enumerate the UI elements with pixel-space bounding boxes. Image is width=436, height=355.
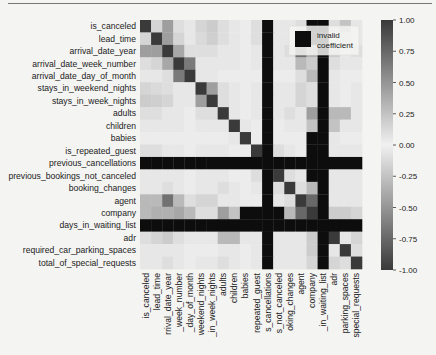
heatmap-cell-invalid bbox=[262, 232, 273, 245]
heatmap-cell bbox=[251, 132, 262, 145]
heatmap-cell bbox=[184, 120, 195, 133]
y-tick-label: required_car_parking_spaces bbox=[23, 245, 136, 255]
heatmap-cell bbox=[307, 207, 318, 220]
heatmap-cell bbox=[218, 45, 229, 58]
heatmap-cell-invalid bbox=[329, 219, 340, 232]
heatmap-cell bbox=[162, 232, 173, 245]
y-tick-label: previous_bookings_not_canceled bbox=[8, 171, 136, 181]
heatmap-cell bbox=[151, 32, 162, 45]
heatmap-cell bbox=[196, 182, 207, 195]
heatmap-cell bbox=[207, 82, 218, 95]
heatmap-cell bbox=[162, 207, 173, 220]
heatmap-cell bbox=[184, 57, 195, 70]
heatmap-cell bbox=[351, 120, 362, 133]
heatmap-cell-invalid bbox=[351, 157, 362, 170]
heatmap-cell bbox=[284, 95, 295, 108]
heatmap-cell bbox=[340, 70, 351, 83]
x-tick-label: agent bbox=[296, 272, 306, 294]
heatmap-cell bbox=[196, 244, 207, 257]
colorbar: 1.000.750.500.250.00-0.25-0.50-0.75-1.00 bbox=[381, 16, 418, 275]
y-tick-label: stays_in_weekend_nights bbox=[38, 83, 136, 93]
heatmap-cell bbox=[295, 107, 306, 120]
heatmap-cell bbox=[218, 95, 229, 108]
heatmap-cell bbox=[162, 70, 173, 83]
heatmap-cell bbox=[173, 182, 184, 195]
heatmap-cell bbox=[251, 182, 262, 195]
heatmap-cell-invalid bbox=[251, 157, 262, 170]
heatmap-cell bbox=[284, 132, 295, 145]
heatmap-cell bbox=[196, 257, 207, 270]
heatmap-cell-invalid bbox=[273, 157, 284, 170]
heatmap-cell bbox=[229, 95, 240, 108]
heatmap-cell bbox=[329, 232, 340, 245]
heatmap-cell bbox=[251, 70, 262, 83]
heatmap-cell bbox=[307, 120, 318, 133]
y-tick-label: days_in_waiting_list bbox=[60, 220, 137, 230]
heatmap-cell-invalid bbox=[196, 157, 207, 170]
y-tick-label: babies bbox=[111, 133, 136, 143]
heatmap-cell bbox=[218, 145, 229, 158]
heatmap-cell bbox=[151, 232, 162, 245]
heatmap-cell bbox=[162, 20, 173, 33]
x-tick-label: adr bbox=[329, 273, 339, 286]
legend-swatch-invalid bbox=[295, 31, 311, 47]
heatmap-cell bbox=[207, 169, 218, 182]
heatmap-cell-invalid bbox=[262, 120, 273, 133]
colorbar-tick-label: 0.25 bbox=[399, 110, 415, 119]
x-tick-label: adults bbox=[218, 273, 228, 296]
colorbar-tick-label: -1.00 bbox=[399, 266, 418, 275]
heatmap-cell bbox=[307, 182, 318, 195]
heatmap-cell-invalid bbox=[318, 194, 329, 207]
heatmap-cell bbox=[229, 120, 240, 133]
x-tick-label: _in_week_nights bbox=[207, 273, 217, 338]
heatmap-cell bbox=[196, 107, 207, 120]
heatmap-cell bbox=[284, 145, 295, 158]
heatmap-cell bbox=[329, 82, 340, 95]
heatmap-cell bbox=[340, 169, 351, 182]
heatmap-cell bbox=[240, 244, 251, 257]
heatmap-cell bbox=[295, 232, 306, 245]
heatmap-cell bbox=[207, 120, 218, 133]
colorbar-tick-label: -0.25 bbox=[399, 172, 418, 181]
x-tick-label: company bbox=[307, 272, 317, 308]
heatmap-cell-invalid bbox=[318, 57, 329, 70]
heatmap-cell bbox=[240, 194, 251, 207]
colorbar-tick-label: -0.50 bbox=[399, 204, 418, 213]
heatmap-cell bbox=[295, 244, 306, 257]
heatmap-cell bbox=[140, 244, 151, 257]
heatmap-cell bbox=[329, 169, 340, 182]
heatmap-cell bbox=[284, 232, 295, 245]
y-tick-label: arrival_date_year bbox=[70, 46, 137, 56]
heatmap-cell-invalid bbox=[351, 219, 362, 232]
heatmap-cell bbox=[173, 120, 184, 133]
heatmap-cell-invalid bbox=[318, 107, 329, 120]
heatmap-cell bbox=[151, 169, 162, 182]
heatmap-cell bbox=[173, 20, 184, 33]
heatmap-cell bbox=[151, 95, 162, 108]
heatmap-cell bbox=[196, 82, 207, 95]
heatmap-cell bbox=[218, 244, 229, 257]
heatmap-cell bbox=[162, 169, 173, 182]
heatmap-cell bbox=[329, 194, 340, 207]
heatmap-cell bbox=[307, 232, 318, 245]
heatmap-cell bbox=[140, 95, 151, 108]
colorbar-gradient bbox=[381, 20, 393, 270]
heatmap-cell bbox=[229, 20, 240, 33]
heatmap-cell bbox=[295, 70, 306, 83]
heatmap-cell bbox=[329, 145, 340, 158]
heatmap-cell bbox=[295, 207, 306, 220]
heatmap-cell bbox=[218, 169, 229, 182]
heatmap-cell bbox=[207, 232, 218, 245]
heatmap-cell bbox=[184, 232, 195, 245]
heatmap-cell bbox=[184, 244, 195, 257]
heatmap-cell bbox=[240, 57, 251, 70]
heatmap-cell bbox=[240, 95, 251, 108]
heatmap-cell bbox=[295, 120, 306, 133]
heatmap-cell bbox=[218, 107, 229, 120]
heatmap-cell bbox=[295, 145, 306, 158]
heatmap-cell bbox=[295, 257, 306, 270]
heatmap-cell bbox=[140, 169, 151, 182]
heatmap-cell bbox=[240, 82, 251, 95]
heatmap-cell-invalid bbox=[273, 207, 284, 220]
heatmap-cell bbox=[351, 95, 362, 108]
